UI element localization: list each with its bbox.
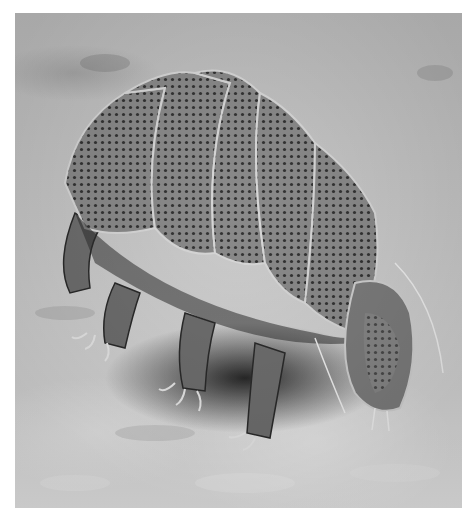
tardigrade-illustration bbox=[15, 13, 462, 508]
micrograph-photo bbox=[15, 13, 462, 508]
